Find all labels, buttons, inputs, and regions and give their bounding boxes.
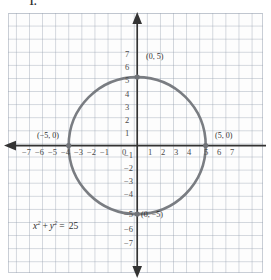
y-tick-2: 2 xyxy=(121,115,133,125)
point-label-top: (0, 5) xyxy=(146,52,163,61)
y-tick-neg-2: −2 xyxy=(120,163,137,173)
x-tick-2: 2 xyxy=(157,147,169,157)
equation-plus: + xyxy=(42,221,47,231)
y-tick-5: 5 xyxy=(121,75,133,85)
y-tick-neg-4: −4 xyxy=(120,189,137,199)
x-tick-1: 1 xyxy=(144,147,156,157)
equation-x-exponent: 2 xyxy=(37,219,40,226)
y-tick-neg-3: −3 xyxy=(120,176,137,186)
y-tick-neg-7: −7 xyxy=(120,238,137,248)
x-tick-origin: 0 xyxy=(118,147,130,157)
equation-label: x2+y2=25 xyxy=(33,219,80,231)
point-top xyxy=(135,75,140,80)
y-tick-1: 1 xyxy=(121,128,133,138)
y-axis-arrow-down xyxy=(132,266,142,278)
y-tick-7: 7 xyxy=(121,49,133,59)
equation-equals: = xyxy=(59,221,64,231)
x-tick-neg-1: −1 xyxy=(96,147,113,157)
point-label-bottom: (0, −5) xyxy=(141,210,163,219)
x-tick-7: 7 xyxy=(226,147,238,157)
y-tick-6: 6 xyxy=(121,62,133,72)
equation-rhs: 25 xyxy=(69,221,79,231)
equation-y-exponent: 2 xyxy=(54,219,57,226)
y-tick-neg-6: −6 xyxy=(120,224,137,234)
y-tick-neg-5: −5 xyxy=(120,209,137,219)
point-label-right: (5, 0) xyxy=(215,131,232,140)
y-tick-4: 4 xyxy=(121,89,133,99)
x-axis-arrow-left xyxy=(4,141,16,151)
y-tick-3: 3 xyxy=(121,102,133,112)
x-tick-5: 5 xyxy=(200,147,212,157)
y-axis-arrow-up xyxy=(132,12,142,24)
x-tick-4: 4 xyxy=(183,147,195,157)
x-tick-6: 6 xyxy=(213,147,225,157)
point-label-left: (−5, 0) xyxy=(37,131,59,140)
x-tick-3: 3 xyxy=(170,147,182,157)
